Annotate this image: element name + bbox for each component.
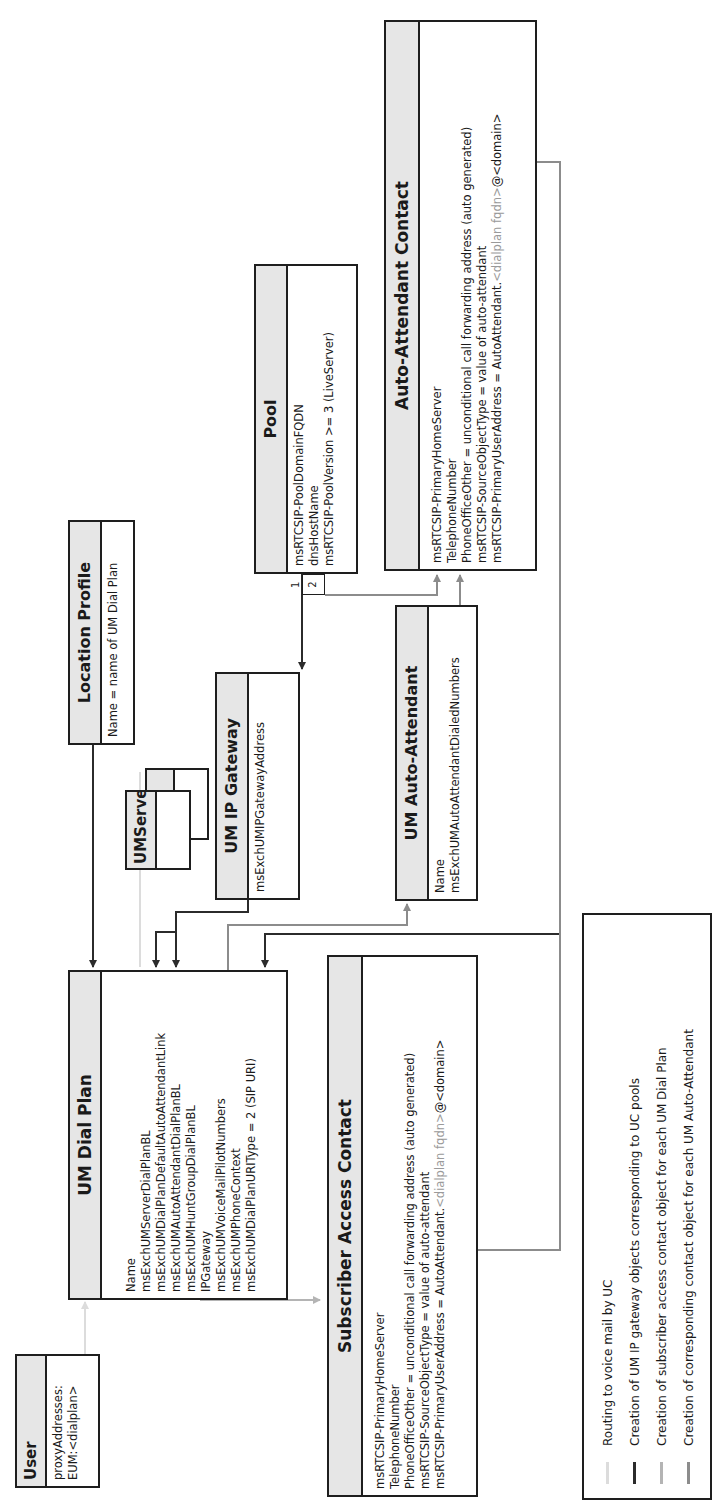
entity-auto-attendant-contact[interactable]: Auto-Attendant Contact msRTCSIP-PrimaryH… [384,20,537,571]
line-gateway-to-dialplan [176,900,248,967]
attribute: msRTCSIP-PoolDomainFQDN [292,272,307,566]
line-dialplan-to-sac-2 [200,1300,318,1332]
attribute-address: msRTCSIP-PrimaryUserAddress = AutoAttend… [490,28,505,563]
entity-location-profile[interactable]: Location Profile Name = name of UM Dial … [68,520,135,745]
attribute: msExchUMServerDialPlanBL [139,978,154,1292]
legend: Routing to voice mail by UC Creation of … [582,913,712,1500]
entity-attributes: msRTCSIP-PoolDomainFQDN dnsHostName msRT… [288,266,341,572]
entity-um-dial-plan[interactable]: UM Dial Plan Name msExchUMServerDialPlan… [68,970,288,1300]
attribute: msExchUMDialPlanURIType = 2 (SIP URI) [244,978,259,1292]
entity-title: Auto-Attendant Contact [386,22,420,569]
line-gateway-to-dialplan-2 [156,912,176,967]
attribute: msExchUMPhoneContext [229,978,244,1292]
entity-attributes: Name = name of UM Dial Plan [102,522,125,743]
attribute: msRTCSIP-SourceObjectType = value of aut… [418,963,433,1489]
entity-title: UM Auto-Attendant [397,607,429,899]
entity-attributes: Name msExchUMServerDialPlanBL msExchUMDi… [102,972,263,1298]
dialplan-fqdn-hint: <dialplan fqdn> [433,1113,447,1207]
legend-swatch-routing [606,1462,609,1484]
attribute: msExchUMAutoAttendantDialedNumbers [448,613,463,893]
attribute: TelephoneNumber [445,28,460,563]
attribute: IPGateway [199,978,214,1292]
entity-user[interactable]: User proxyAddresses: EUM:<dialplan> [15,1354,100,1488]
diagram-canvas: User proxyAddresses: EUM:<dialplan> UM D… [0,0,718,1512]
attribute: msRTCSIP-PrimaryHomeServer [430,28,445,563]
attribute: proxyAddresses: [51,1362,66,1480]
entity-um-server[interactable]: UMServer [125,790,191,870]
legend-item: Creation of subscriber access contact ob… [648,929,675,1484]
attribute: Name [124,978,139,1292]
dialplan-fqdn-hint: <dialplan fqdn> [490,187,504,281]
attribute: PhoneOfficeOther = unconditional call fo… [460,28,475,563]
attribute: Name = name of UM Dial Plan [106,528,121,737]
entity-attributes: msRTCSIP-PrimaryHomeServer TelephoneNumb… [420,22,509,569]
entity-title: UM IP Gateway [217,674,249,898]
attribute: msExchUMIPGatewayAddress [253,680,268,892]
attribute: msRTCSIP-PoolVersion >= 3 (LiveServer) [322,272,337,566]
attribute: msRTCSIP-SourceObjectType = value of aut… [475,28,490,563]
entity-attributes: msRTCSIP-PrimaryHomeServer TelephoneNumb… [363,957,452,1495]
legend-swatch-autoattendant [687,1462,690,1484]
legend-swatch-gateway [633,1462,636,1484]
legend-label: Creation of corresponding contact object… [682,1029,696,1446]
attribute: msExchUMDialPlanDefaultAutoAttendantLink [154,978,169,1292]
legend-label: Creation of UM IP gateway objects corres… [628,1078,642,1446]
entity-title: Subscriber Access Contact [329,957,363,1495]
attribute: dnsHostName [307,272,322,566]
pool-port-2: 2 [302,574,325,595]
legend-item: Creation of corresponding contact object… [675,929,702,1484]
legend-label: Creation of subscriber access contact ob… [655,1047,669,1446]
entity-pool[interactable]: Pool msRTCSIP-PoolDomainFQDN dnsHostName… [254,264,358,574]
attribute: TelephoneNumber [388,963,403,1489]
entity-attributes: msExchUMIPGatewayAddress [249,674,272,898]
attribute-address: msRTCSIP-PrimaryUserAddress = AutoAttend… [433,963,448,1489]
entity-attributes: Name msExchUMAutoAttendantDialedNumbers [429,607,467,899]
entity-title: Pool [256,266,288,572]
pool-port-2-label: 2 [307,581,318,587]
entity-title: UM Dial Plan [70,972,102,1298]
legend-item: Creation of UM IP gateway objects corres… [621,929,648,1484]
legend-item: Routing to voice mail by UC [594,929,621,1484]
entity-subscriber-access-contact[interactable]: Subscriber Access Contact msRTCSIP-Prima… [327,955,478,1497]
legend-label: Routing to voice mail by UC [601,1280,615,1446]
attribute: msExchUMVoiceMailPilotNumbers [214,978,229,1292]
entity-title: User [17,1356,47,1486]
pool-port-1: 1 [290,582,301,588]
legend-swatch-subscriber [660,1462,663,1484]
attribute: Name [433,613,448,893]
attribute: PhoneOfficeOther = unconditional call fo… [403,963,418,1489]
attribute: msExchUMHuntGroupDialPlanBL [184,978,199,1292]
entity-title: Location Profile [70,522,102,743]
attribute: msRTCSIP-PrimaryHomeServer [373,963,388,1489]
entity-um-auto-attendant[interactable]: UM Auto-Attendant Name msExchUMAutoAtten… [395,605,478,901]
attribute: msExchUMAutoAttendantDialPlanBL [169,978,184,1292]
line-pool-to-aacontact [325,575,437,595]
entity-um-ip-gateway[interactable]: UM IP Gateway msExchUMIPGatewayAddress [215,672,300,900]
attribute: EUM:<dialplan> [66,1362,81,1480]
entity-title: UMServer [127,792,157,868]
entity-attributes: proxyAddresses: EUM:<dialplan> [47,1356,85,1486]
